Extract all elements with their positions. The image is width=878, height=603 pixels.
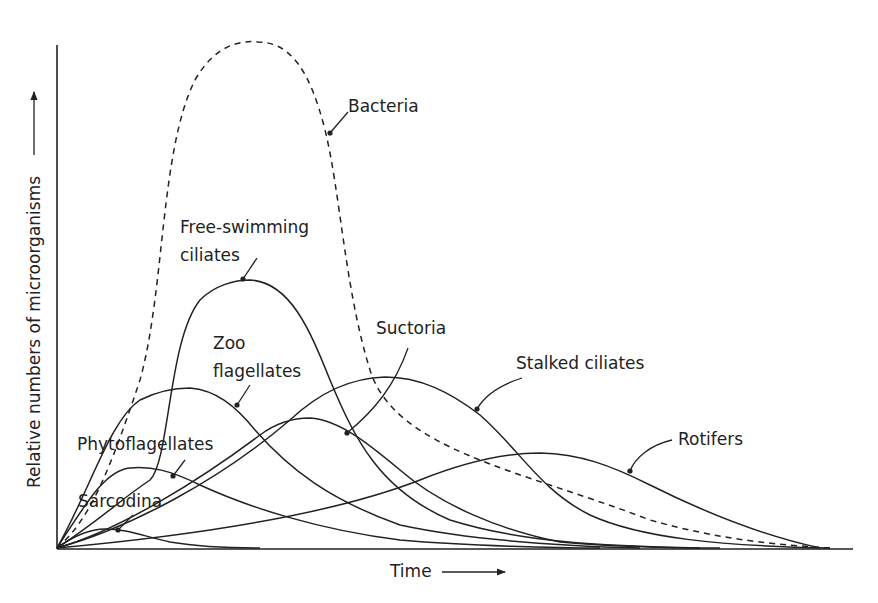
pointer-suctoria [347, 348, 408, 433]
x-axis-title: Time [389, 561, 432, 581]
pointer-phyto [173, 460, 185, 476]
pointer-zoo [237, 385, 250, 405]
pointer-stalked [477, 378, 522, 409]
curves [57, 42, 830, 548]
label-bacteria: Bacteria [348, 96, 419, 116]
label-suctoria: Suctoria [376, 318, 446, 338]
label-sarcodina: Sarcodina [78, 491, 162, 511]
label-stalked: Stalked ciliates [516, 353, 645, 373]
pointer-bacteria [330, 112, 348, 133]
label-zoo-2: flagellates [213, 361, 301, 381]
succession-chart: Bacteria Free-swimming ciliates Zoo flag… [0, 0, 878, 603]
stalked-ciliates-curve [57, 377, 830, 548]
label-rotifers: Rotifers [678, 429, 743, 449]
label-free-swimming-2: ciliates [180, 245, 240, 265]
label-free-swimming-1: Free-swimming [180, 217, 309, 237]
label-phyto: Phytoflagellates [77, 434, 214, 454]
y-axis-title: Relative numbers of microorganisms [24, 176, 44, 488]
pointer-free-swimming [243, 258, 257, 279]
pointer-rotifers [630, 440, 672, 471]
label-zoo-1: Zoo [213, 333, 245, 353]
